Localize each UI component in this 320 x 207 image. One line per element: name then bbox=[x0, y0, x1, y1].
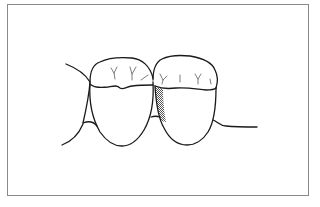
left-tooth-fissure bbox=[141, 75, 148, 80]
right-tooth-crown-outline bbox=[153, 55, 217, 88]
tooth-illustration bbox=[0, 0, 320, 207]
left-tooth-fissure bbox=[130, 67, 136, 80]
right-tooth-fissure bbox=[210, 79, 211, 84]
left-tooth bbox=[90, 57, 153, 146]
left-interdental-line bbox=[83, 82, 90, 123]
right-gingiva-line bbox=[213, 120, 257, 127]
right-tooth-fissure bbox=[195, 74, 201, 84]
left-tooth-cej-line bbox=[90, 84, 153, 89]
left-gum-upper-line bbox=[66, 64, 90, 82]
middle-papilla-line bbox=[151, 116, 160, 117]
left-gum-lower-line bbox=[62, 124, 83, 145]
right-tooth-fissure bbox=[160, 74, 167, 84]
right-tooth-cej-line bbox=[155, 86, 216, 90]
left-tooth-fissure bbox=[111, 67, 117, 79]
left-tooth-body-outline bbox=[90, 82, 153, 146]
